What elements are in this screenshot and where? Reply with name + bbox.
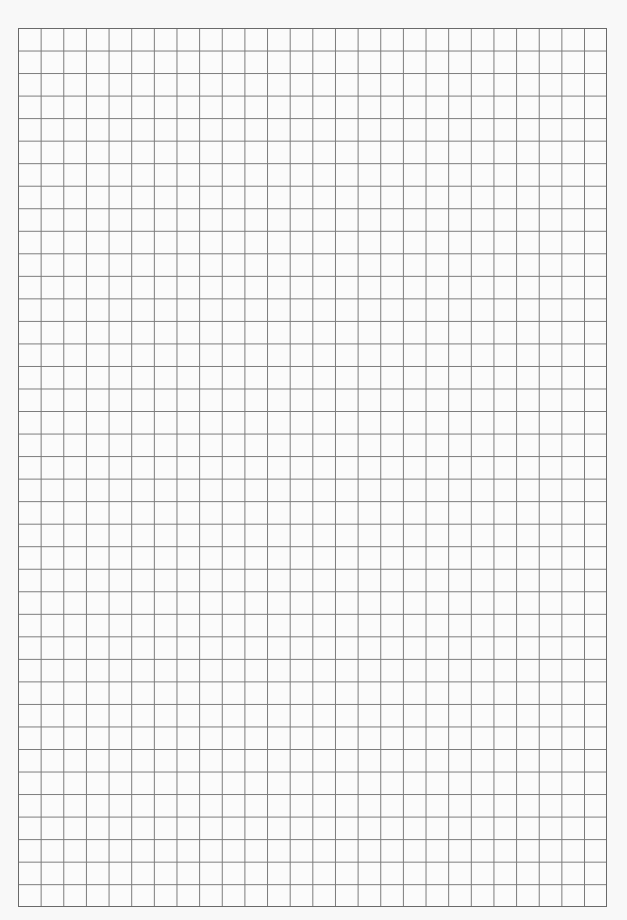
square-grid [18,28,607,907]
graph-paper-page [0,0,627,920]
